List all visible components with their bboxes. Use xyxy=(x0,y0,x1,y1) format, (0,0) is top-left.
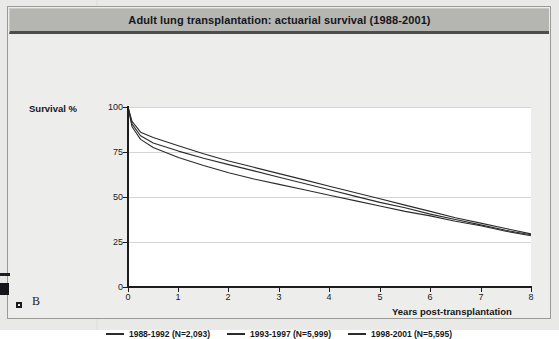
y-tick-mark-75 xyxy=(123,152,127,153)
y-tick-mark-100 xyxy=(123,107,127,108)
x-tick-label-6: 6 xyxy=(420,292,440,302)
survival-curves xyxy=(128,107,531,287)
legend-item-1998-2001: 1998-2001 (N=5,595) xyxy=(348,329,452,339)
y-tick-label-0: 0 xyxy=(93,282,123,292)
x-tick-label-2: 2 xyxy=(218,292,238,302)
legend-item-1993-1997: 1993-1997 (N=5,999) xyxy=(227,329,331,339)
y-tick-label-25: 25 xyxy=(93,237,123,247)
margin-rule-artifact xyxy=(0,273,10,276)
x-tick-mark-4 xyxy=(329,288,330,292)
y-tick-label-50: 50 xyxy=(93,192,123,202)
curve-1993-1997 xyxy=(128,107,531,235)
panel-letter: B xyxy=(32,294,40,309)
x-tick-label-5: 5 xyxy=(370,292,390,302)
x-tick-mark-5 xyxy=(380,288,381,292)
legend-line-icon xyxy=(106,333,124,335)
margin-dot-inner-artifact xyxy=(18,304,20,306)
y-tick-label-100: 100 xyxy=(93,102,123,112)
y-tick-mark-50 xyxy=(123,197,127,198)
x-tick-label-8: 8 xyxy=(521,292,541,302)
x-tick-mark-7 xyxy=(481,288,482,292)
x-tick-label-4: 4 xyxy=(319,292,339,302)
x-tick-mark-6 xyxy=(430,288,431,292)
legend-line-icon xyxy=(348,333,366,335)
legend-item-1988-1992: 1988-1992 (N=2,093) xyxy=(106,329,210,339)
y-tick-mark-25 xyxy=(123,242,127,243)
margin-mark-artifact xyxy=(0,283,9,295)
chart-legend: 1988-1992 (N=2,093) 1993-1997 (N=5,999) … xyxy=(9,329,549,339)
curve-1988-1992 xyxy=(128,107,531,234)
y-axis-title: Survival % xyxy=(29,103,77,114)
figure-title-bar: Adult lung transplantation: actuarial su… xyxy=(9,8,549,34)
x-tick-label-3: 3 xyxy=(269,292,289,302)
x-tick-label-7: 7 xyxy=(471,292,491,302)
curve-1998-2001 xyxy=(128,107,531,236)
x-axis-title: Years post-transplantation xyxy=(392,306,512,317)
legend-label-1998-2001: 1998-2001 (N=5,595) xyxy=(371,329,452,339)
figure-title: Adult lung transplantation: actuarial su… xyxy=(128,14,430,26)
x-tick-mark-1 xyxy=(178,288,179,292)
x-tick-mark-2 xyxy=(228,288,229,292)
x-tick-mark-3 xyxy=(279,288,280,292)
x-tick-mark-0 xyxy=(128,288,129,292)
legend-label-1988-1992: 1988-1992 (N=2,093) xyxy=(129,329,210,339)
chart-panel: Survival % 100 75 50 25 0 0 1 2 xyxy=(9,37,549,318)
y-tick-label-75: 75 xyxy=(93,147,123,157)
y-tick-mark-0 xyxy=(123,287,127,288)
legend-line-icon xyxy=(227,333,245,335)
x-tick-label-1: 1 xyxy=(168,292,188,302)
x-tick-mark-8 xyxy=(531,288,532,292)
x-tick-label-0: 0 xyxy=(118,292,138,302)
legend-label-1993-1997: 1993-1997 (N=5,999) xyxy=(250,329,331,339)
y-axis-line xyxy=(127,106,129,288)
